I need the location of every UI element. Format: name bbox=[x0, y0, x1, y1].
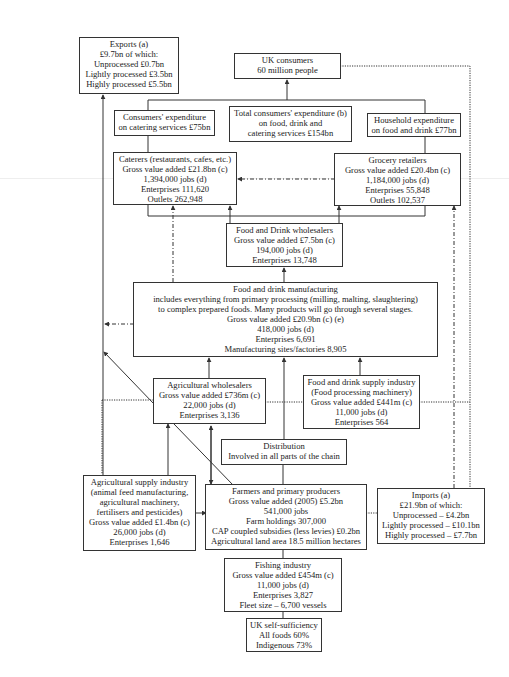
agricultural-supply-box: Agricultural supply industry (animal fee… bbox=[83, 475, 196, 551]
household-expenditure-box: Household expenditure on food and drink … bbox=[367, 113, 461, 137]
agri-supply-line: fertilisers and pesticides) bbox=[86, 507, 193, 517]
exports-line: Unprocessed £0.7bn bbox=[82, 59, 176, 69]
manufacturing-line: Manufacturing sites/factories 8,905 bbox=[136, 344, 435, 354]
fishing-line: 11,000 jobs (d) bbox=[227, 580, 339, 590]
fishing-title: Fishing industry bbox=[227, 560, 339, 570]
farmers-line: Gross value added (2005) £5.2bn bbox=[208, 496, 364, 506]
exports-line: Lightly processed £3.5bn bbox=[82, 69, 176, 79]
agri-wholesalers-title: Agricultural wholesalers bbox=[156, 380, 263, 390]
agri-supply-line: agricultural machinery, bbox=[86, 497, 193, 507]
agri-wholesalers-line: Gross value added £736m (c) bbox=[156, 390, 263, 400]
household-expenditure-line: on food and drink £77bn bbox=[370, 125, 458, 135]
grocery-line: 1,184,000 jobs (d) bbox=[337, 175, 458, 185]
supply-industry-box: Food and drink supply industry (Food pro… bbox=[303, 375, 420, 429]
uk-consumers-title: UK consumers bbox=[237, 55, 338, 65]
imports-line: Lightly processed – £10.1bn bbox=[380, 520, 482, 530]
caterers-line: Outlets 262,948 bbox=[116, 194, 234, 204]
caterers-line: Gross value added £21.8bn (c) bbox=[116, 164, 234, 174]
supply-industry-line: 11,000 jobs (d) bbox=[306, 407, 417, 417]
self-sufficiency-line: All foods 60% bbox=[249, 630, 319, 640]
self-sufficiency-line: Indigenous 73% bbox=[249, 640, 319, 650]
caterers-title: Caterers (restaurants, cafes, etc.) bbox=[116, 154, 234, 164]
wholesalers-line: Gross value added £7.5bn (c) bbox=[229, 235, 340, 245]
grocery-retailers-box: Grocery retailers Gross value added £20.… bbox=[334, 153, 461, 206]
farmers-box: Farmers and primary producers Gross valu… bbox=[205, 484, 367, 550]
caterers-line: 1,394,000 jobs (d) bbox=[116, 174, 234, 184]
exports-title: Exports (a) bbox=[82, 39, 176, 49]
total-expenditure-line: Total consumers' expenditure (b) bbox=[232, 108, 349, 118]
grocery-title: Grocery retailers bbox=[337, 155, 458, 165]
wholesalers-title: Food and Drink wholesalers bbox=[229, 225, 340, 235]
supply-industry-line: Enterprises 564 bbox=[306, 417, 417, 427]
fishing-box: Fishing industry Gross value added £454m… bbox=[224, 558, 342, 612]
imports-box: Imports (a) £21.9bn of which: Unprocesse… bbox=[377, 488, 485, 544]
farmers-line: 541,000 jobs bbox=[208, 506, 364, 516]
manufacturing-box: Food and drink manufacturing includes ev… bbox=[133, 282, 438, 357]
total-expenditure-line: catering services £154bn bbox=[232, 128, 349, 138]
supply-industry-line: Gross value added £441m (c) bbox=[306, 397, 417, 407]
manufacturing-title: Food and drink manufacturing bbox=[136, 284, 435, 294]
imports-line: Unprocessed – £4.2bn bbox=[380, 510, 482, 520]
self-sufficiency-title: UK self-sufficiency bbox=[249, 620, 319, 630]
manufacturing-line: includes everything from primary process… bbox=[136, 294, 435, 304]
agri-wholesalers-line: Enterprises 3,136 bbox=[156, 410, 263, 420]
wholesalers-line: 194,000 jobs (d) bbox=[229, 245, 340, 255]
manufacturing-line: 418,000 jobs (d) bbox=[136, 324, 435, 334]
fishing-line: Enterprises 3,827 bbox=[227, 590, 339, 600]
manufacturing-line: Gross value added £20.9bn (c) (e) bbox=[136, 314, 435, 324]
manufacturing-line: Enterprises 6,691 bbox=[136, 334, 435, 344]
manufacturing-line: to complex prepared foods. Many products… bbox=[136, 304, 435, 314]
imports-title: Imports (a) bbox=[380, 490, 482, 500]
catering-expenditure-line: on catering services £75bn bbox=[117, 122, 212, 132]
caterers-box: Caterers (restaurants, cafes, etc.) Gros… bbox=[113, 152, 237, 205]
agri-supply-line: Gross value added £1.4bn (c) bbox=[86, 517, 193, 527]
supply-industry-title: Food and drink supply industry bbox=[306, 377, 417, 387]
distribution-line: Involved in all parts of the chain bbox=[224, 451, 344, 461]
farmers-line: Farm holdings 307,000 bbox=[208, 516, 364, 526]
agricultural-wholesalers-box: Agricultural wholesalers Gross value add… bbox=[153, 378, 266, 424]
imports-line: £21.9bn of which: bbox=[380, 500, 482, 510]
farmers-line: Agricultural land area 18.5 million hect… bbox=[208, 536, 364, 546]
wholesalers-line: Enterprises 13,748 bbox=[229, 255, 340, 265]
supply-industry-line: (Food processing machinery) bbox=[306, 387, 417, 397]
uk-consumers-line: 60 million people bbox=[237, 65, 338, 75]
imports-line: Highly processed – £7.7bn bbox=[380, 530, 482, 540]
catering-expenditure-box: Consumers' expenditure on catering servi… bbox=[114, 110, 215, 136]
uk-consumers-box: UK consumers 60 million people bbox=[234, 53, 341, 79]
grocery-line: Enterprises 55,848 bbox=[337, 185, 458, 195]
agri-supply-line: (animal feed manufacturing, bbox=[86, 487, 193, 497]
farmers-line: CAP coupled subsidies (less levies) £0.2… bbox=[208, 526, 364, 536]
distribution-box: Distribution Involved in all parts of th… bbox=[221, 439, 347, 465]
wholesalers-box: Food and Drink wholesalers Gross value a… bbox=[226, 223, 343, 267]
distribution-title: Distribution bbox=[224, 441, 344, 451]
total-expenditure-line: on food, drink and bbox=[232, 118, 349, 128]
farmers-title: Farmers and primary producers bbox=[208, 486, 364, 496]
grocery-line: Gross value added £20.4bn (c) bbox=[337, 165, 458, 175]
grocery-line: Outlets 102,537 bbox=[337, 195, 458, 205]
agri-supply-title: Agricultural supply industry bbox=[86, 477, 193, 487]
total-expenditure-box: Total consumers' expenditure (b) on food… bbox=[229, 106, 352, 142]
agri-supply-line: 26,000 jobs (d) bbox=[86, 527, 193, 537]
exports-line: £9.7bn of which: bbox=[82, 49, 176, 59]
agri-wholesalers-line: 22,000 jobs (d) bbox=[156, 400, 263, 410]
caterers-line: Enterprises 111,620 bbox=[116, 184, 234, 194]
fishing-line: Fleet size – 6,700 vessels bbox=[227, 600, 339, 610]
fishing-line: Gross value added £454m (c) bbox=[227, 570, 339, 580]
household-expenditure-line: Household expenditure bbox=[370, 115, 458, 125]
self-sufficiency-box: UK self-sufficiency All foods 60% Indige… bbox=[246, 618, 322, 652]
exports-box: Exports (a) £9.7bn of which: Unprocessed… bbox=[79, 37, 179, 94]
catering-expenditure-line: Consumers' expenditure bbox=[117, 112, 212, 122]
agri-supply-line: Enterprises 1,646 bbox=[86, 537, 193, 547]
exports-line: Highly processed £5.5bn bbox=[82, 79, 176, 89]
